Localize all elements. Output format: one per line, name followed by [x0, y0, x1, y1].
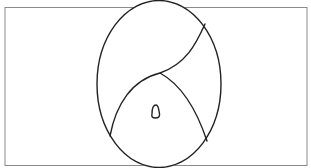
diagram-canvas: [0, 0, 311, 168]
region-diagram: [0, 0, 311, 168]
